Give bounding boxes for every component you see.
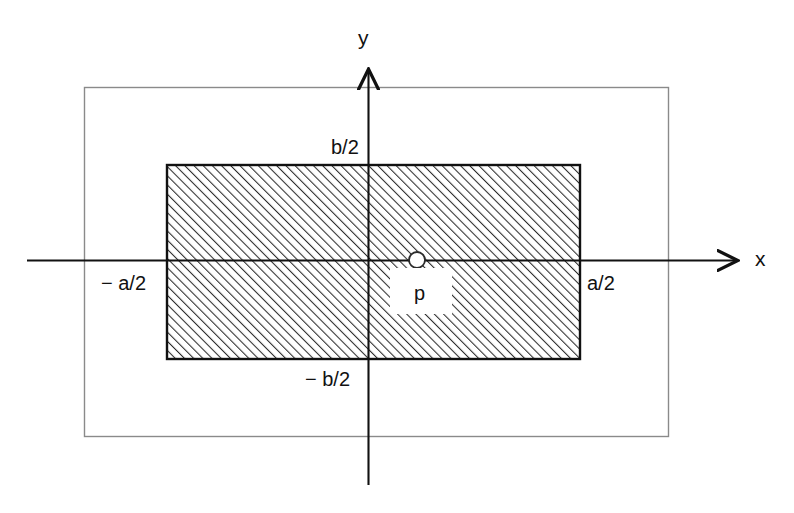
dimension-label-a-half-positive: a/2 <box>587 273 615 293</box>
x-axis-label: x <box>755 248 766 269</box>
point-p-marker <box>409 252 425 268</box>
figure-canvas: y x b/2 − b/2 − a/2 a/2 p <box>0 0 794 513</box>
dimension-label-b-half-negative: − b/2 <box>305 369 350 389</box>
dimension-label-a-half-negative: − a/2 <box>101 273 146 293</box>
hatched-rectangle-fill <box>167 165 580 359</box>
diagram-svg <box>0 0 794 513</box>
y-axis-label: y <box>358 27 369 48</box>
point-p-label: p <box>414 283 425 303</box>
dimension-label-b-half-positive: b/2 <box>331 137 359 157</box>
